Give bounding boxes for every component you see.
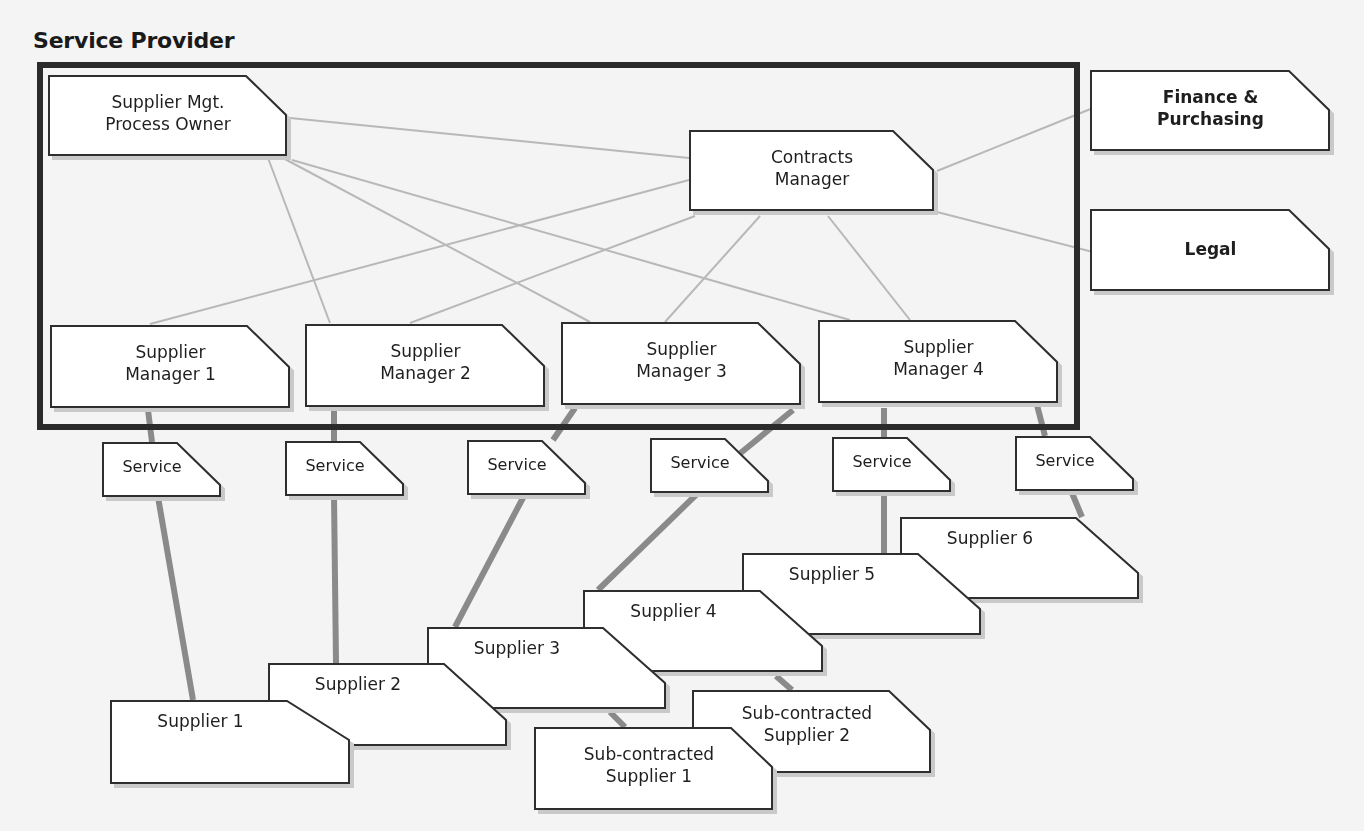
node-service-2[interactable]: Service (285, 441, 405, 496)
node-service-1[interactable]: Service (102, 442, 222, 497)
node-label: Service (82, 456, 222, 478)
node-supplier-1[interactable]: Supplier 1 (110, 700, 351, 784)
node-service-3[interactable]: Service (467, 440, 587, 495)
node-label: Supplier Manager 1 (50, 341, 291, 385)
node-label: Supplier Manager 4 (818, 336, 1059, 380)
node-supplier-manager-3[interactable]: Supplier Manager 3 (561, 322, 802, 405)
node-supplier-manager-4[interactable]: Supplier Manager 4 (818, 320, 1059, 403)
node-label: Supplier Manager 3 (561, 338, 802, 382)
node-label: Supplier 4 (583, 600, 764, 622)
node-label: Supplier 1 (110, 710, 291, 732)
node-label: Sub-contracted Supplier 1 (534, 743, 764, 787)
node-label: Supplier 6 (900, 527, 1080, 549)
line-sup3-sub1 (610, 712, 625, 727)
node-finance-purchasing[interactable]: Finance & Purchasing (1090, 70, 1331, 151)
line-svc6-sup6 (1072, 493, 1082, 517)
node-contracts-manager[interactable]: Contracts Manager (689, 130, 935, 211)
line-svc3-sup3 (455, 494, 525, 627)
node-label: Service (812, 451, 952, 473)
node-label: Supplier Mgt. Process Owner (48, 91, 288, 135)
line-sup4-sub2 (776, 676, 792, 690)
node-process-owner[interactable]: Supplier Mgt. Process Owner (48, 75, 288, 156)
line-svc1-sup1 (158, 497, 193, 700)
node-label: Supplier 5 (742, 563, 922, 585)
node-label: Legal (1090, 238, 1331, 260)
node-supplier-manager-1[interactable]: Supplier Manager 1 (50, 325, 291, 408)
node-label: Supplier 3 (427, 637, 607, 659)
node-label: Service (995, 450, 1135, 472)
node-label: Supplier 2 (268, 673, 448, 695)
node-label: Service (630, 452, 770, 474)
node-legal[interactable]: Legal (1090, 209, 1331, 291)
node-service-5[interactable]: Service (832, 437, 952, 492)
line-svc2-sup2 (334, 495, 336, 663)
node-label: Supplier Manager 2 (305, 340, 546, 384)
node-subcontracted-supplier-1[interactable]: Sub-contracted Supplier 1 (534, 727, 774, 810)
node-supplier-manager-2[interactable]: Supplier Manager 2 (305, 324, 546, 407)
node-label: Service (447, 454, 587, 476)
node-label: Service (265, 455, 405, 477)
node-service-6[interactable]: Service (1015, 436, 1135, 491)
node-label: Finance & Purchasing (1090, 86, 1331, 130)
node-label: Contracts Manager (689, 146, 935, 190)
node-service-4[interactable]: Service (650, 438, 770, 493)
